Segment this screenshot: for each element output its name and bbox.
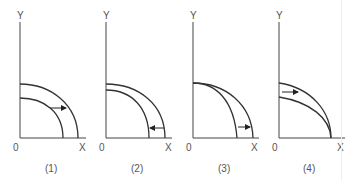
ppf-diagram: Y 0 X (1) Y 0 X (2) Y 0 X (3) Y 0 X [0, 0, 351, 181]
origin-label: 0 [99, 142, 105, 153]
origin-label: 0 [272, 142, 278, 153]
panel-4: Y 0 X (4) [272, 10, 345, 174]
y-label: Y [190, 10, 197, 21]
caption: (1) [45, 163, 57, 174]
outer-curve [106, 84, 165, 138]
inner-curve [106, 90, 149, 138]
origin-label: 0 [13, 142, 19, 153]
y-label: Y [17, 10, 24, 21]
outer-curve [20, 84, 78, 138]
x-label: X [251, 142, 258, 153]
caption: (3) [218, 163, 230, 174]
inner-curve [20, 98, 63, 138]
inner-curve [193, 83, 237, 138]
y-label: Y [103, 10, 110, 21]
outer-curve [193, 83, 253, 138]
caption: (4) [303, 163, 315, 174]
panel-1: Y 0 X (1) [13, 10, 86, 174]
inner-curve [279, 97, 331, 138]
x-label: X [79, 142, 86, 153]
origin-label: 0 [186, 142, 192, 153]
y-label: Y [276, 10, 283, 21]
outer-curve [279, 83, 331, 138]
page-edge-divider [341, 0, 342, 181]
panel-3: Y 0 X (3) [186, 10, 259, 174]
panel-2: Y 0 X (2) [99, 10, 172, 174]
x-label: X [165, 142, 172, 153]
caption: (2) [131, 163, 143, 174]
